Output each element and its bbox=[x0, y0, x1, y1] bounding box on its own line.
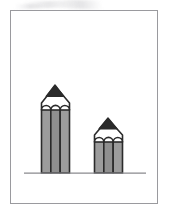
illustration-page: Two pencils illustration Tall pencil Sho… bbox=[0, 0, 169, 213]
large-pencil-barrel bbox=[42, 110, 70, 173]
pencils-illustration bbox=[0, 0, 169, 213]
small-pencil bbox=[95, 118, 123, 173]
large-pencil-graphite-tip bbox=[46, 85, 64, 96]
small-pencil-barrel bbox=[95, 142, 123, 173]
small-pencil-graphite-tip bbox=[99, 118, 117, 129]
large-pencil bbox=[42, 85, 70, 173]
